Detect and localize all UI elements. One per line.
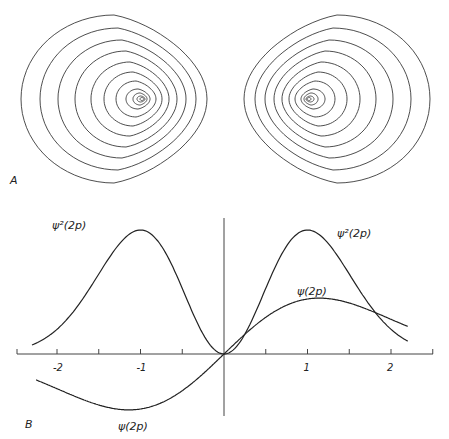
psi-curve-negative — [36, 354, 224, 410]
contour-ring — [140, 98, 144, 101]
psi-curve-positive — [224, 298, 408, 354]
psi-squared-curve — [32, 230, 408, 354]
x-axis-ticks — [57, 349, 433, 354]
label-psi-left: ψ(2p) — [118, 420, 148, 433]
label-psi-squared-right: ψ²(2p) — [337, 227, 371, 240]
contour-ring — [307, 98, 311, 101]
panel-label-b: B — [25, 418, 33, 431]
contour-ring — [282, 62, 360, 136]
x-tick-label: -1 — [137, 362, 147, 373]
label-psi-right: ψ(2p) — [297, 285, 327, 298]
contour-ring — [40, 28, 196, 170]
panel-label-a: A — [9, 174, 18, 187]
x-axis-tick-labels: -2-112 — [53, 362, 393, 373]
contour-ring — [126, 89, 150, 109]
figure-canvas: A -2-112 ψ²(2p) ψ²(2p) ψ(2p) ψ(2p) B — [0, 0, 449, 439]
contour-plot-right — [244, 15, 430, 183]
contour-ring — [301, 89, 325, 109]
label-psi-squared-left: ψ²(2p) — [52, 219, 86, 232]
plot-axes — [17, 218, 433, 416]
contour-ring — [58, 40, 186, 158]
contour-ring — [255, 28, 411, 170]
contour-plot-left — [21, 15, 207, 183]
x-tick-label: 2 — [387, 362, 393, 373]
contour-ring — [265, 40, 393, 158]
contour-ring — [91, 62, 169, 136]
x-tick-label: 1 — [304, 362, 310, 373]
x-tick-label: -2 — [53, 362, 63, 373]
